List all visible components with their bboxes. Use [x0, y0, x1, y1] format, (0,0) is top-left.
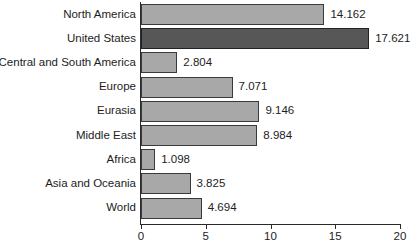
x-tick-label: 20	[394, 231, 407, 243]
table-row: Europe7.071	[0, 77, 415, 98]
bar	[141, 77, 233, 98]
x-tick-mark	[141, 225, 142, 229]
x-tick-mark	[206, 225, 207, 229]
y-axis-line	[140, 2, 141, 224]
table-row: World4.694	[0, 198, 415, 219]
bar-value-label: 1.098	[161, 154, 190, 166]
bar-chart: North America14.162United States17.621Ce…	[0, 0, 415, 248]
x-tick-mark	[271, 225, 272, 229]
bar-value-label: 7.071	[239, 81, 268, 93]
table-row: Central and South America2.804	[0, 52, 415, 73]
table-row: Middle East8.984	[0, 125, 415, 146]
bar	[141, 28, 369, 49]
bar-value-label: 3.825	[197, 178, 226, 190]
bar-value-label: 17.621	[375, 33, 410, 45]
bar	[141, 52, 177, 73]
category-label: North America	[63, 9, 136, 21]
bar-value-label: 8.984	[263, 130, 292, 142]
category-label: Central and South America	[0, 57, 136, 69]
x-tick-label: 5	[203, 231, 209, 243]
category-label: Asia and Oceania	[45, 178, 136, 190]
bar	[141, 149, 155, 170]
category-label: World	[106, 202, 136, 214]
bar	[141, 173, 191, 194]
bar-value-label: 9.146	[265, 106, 294, 118]
x-tick-label: 0	[138, 231, 144, 243]
category-label: United States	[67, 33, 136, 45]
category-label: Middle East	[76, 130, 136, 142]
table-row: Eurasia9.146	[0, 101, 415, 122]
table-row: Africa1.098	[0, 149, 415, 170]
table-row: Asia and Oceania3.825	[0, 173, 415, 194]
category-label: Africa	[107, 154, 136, 166]
bar-value-label: 4.694	[208, 202, 237, 214]
category-label: Europe	[99, 81, 136, 93]
table-row: North America14.162	[0, 4, 415, 25]
bar	[141, 125, 257, 146]
table-row: United States17.621	[0, 28, 415, 49]
x-tick-label: 10	[264, 231, 277, 243]
x-tick-mark	[335, 225, 336, 229]
bar	[141, 198, 202, 219]
category-label: Eurasia	[97, 106, 136, 118]
bar	[141, 4, 324, 25]
bar-value-label: 14.162	[330, 9, 365, 21]
bar	[141, 101, 259, 122]
x-tick-label: 15	[329, 231, 342, 243]
bar-value-label: 2.804	[183, 57, 212, 69]
x-tick-mark	[400, 225, 401, 229]
